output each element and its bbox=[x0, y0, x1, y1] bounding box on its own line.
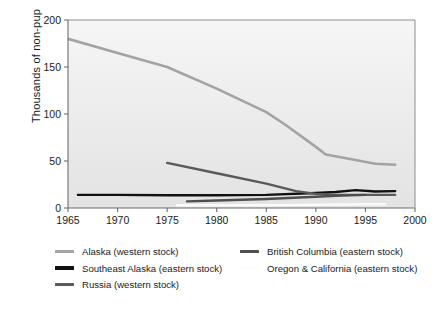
y-tick-label-0: 0 bbox=[55, 202, 61, 214]
x-tick-label-1: 1970 bbox=[106, 214, 130, 226]
legend-item[interactable]: British Columbia (eastern stock) bbox=[240, 245, 417, 258]
x-tick-label-6: 1995 bbox=[354, 214, 378, 226]
x-tick-label-7: 2000 bbox=[403, 214, 427, 226]
x-tick-label-3: 1980 bbox=[205, 214, 229, 226]
legend-swatch-icon bbox=[240, 250, 259, 253]
legend-column-right: British Columbia (eastern stock)Oregon &… bbox=[240, 245, 417, 291]
x-tick-label-2: 1975 bbox=[155, 214, 179, 226]
legend-item[interactable]: Russia (western stock) bbox=[55, 278, 230, 291]
legend-item[interactable]: Southeast Alaska (eastern stock) bbox=[55, 262, 230, 275]
legend-swatch-icon bbox=[240, 266, 259, 269]
chart-figure: Thousands of non-pup 0501001502001965197… bbox=[0, 0, 447, 310]
chart-legend: Alaska (western stock)Southeast Alaska (… bbox=[0, 245, 447, 291]
x-tick-label-5: 1990 bbox=[304, 214, 328, 226]
series-line-4 bbox=[177, 204, 385, 205]
legend-item-label: British Columbia (eastern stock) bbox=[267, 246, 403, 257]
legend-swatch-icon bbox=[55, 283, 74, 286]
legend-item-label: Russia (western stock) bbox=[82, 279, 179, 290]
x-tick-label-0: 1965 bbox=[56, 214, 80, 226]
y-tick-label-4: 200 bbox=[43, 14, 61, 26]
legend-item[interactable]: Oregon & California (eastern stock) bbox=[240, 262, 417, 275]
plot-background bbox=[68, 20, 415, 208]
y-tick-label-2: 100 bbox=[43, 108, 61, 120]
y-tick-label-1: 50 bbox=[49, 155, 61, 167]
legend-item[interactable]: Alaska (western stock) bbox=[55, 245, 230, 258]
legend-swatch-icon bbox=[55, 250, 74, 253]
legend-column-left: Alaska (western stock)Southeast Alaska (… bbox=[55, 245, 230, 291]
legend-item-label: Oregon & California (eastern stock) bbox=[267, 263, 417, 274]
x-tick-label-4: 1985 bbox=[255, 214, 279, 226]
legend-swatch-icon bbox=[55, 266, 74, 269]
legend-item-label: Southeast Alaska (eastern stock) bbox=[82, 263, 222, 274]
y-tick-label-3: 150 bbox=[43, 61, 61, 73]
legend-item-label: Alaska (western stock) bbox=[82, 246, 179, 257]
